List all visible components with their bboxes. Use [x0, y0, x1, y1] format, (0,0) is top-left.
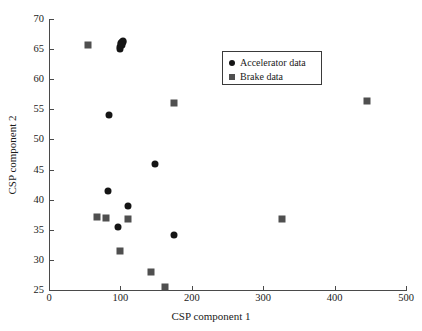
y-tick-mark [50, 170, 54, 171]
data-point-brake [170, 100, 177, 107]
legend-entry-brake: Brake data [229, 70, 316, 84]
data-point-accelerator [151, 160, 158, 167]
data-point-brake [125, 215, 132, 222]
x-tick-mark [335, 286, 336, 290]
data-point-brake [103, 214, 110, 221]
data-point-accelerator [114, 224, 121, 231]
x-axis-title: CSP component 1 [171, 311, 250, 322]
y-tick-label: 25 [26, 285, 44, 296]
y-axis-line [49, 19, 50, 291]
y-tick-label: 45 [26, 164, 44, 175]
data-point-accelerator [125, 202, 132, 209]
data-point-brake [279, 215, 286, 222]
y-tick-label: 70 [26, 14, 44, 25]
data-point-brake [148, 268, 155, 275]
data-point-accelerator [104, 187, 111, 194]
data-point-brake [363, 97, 370, 104]
x-tick-mark [406, 286, 407, 290]
data-point-accelerator [105, 112, 112, 119]
square-marker-icon [229, 74, 235, 80]
x-tick-label: 0 [46, 293, 51, 304]
data-point-brake [85, 42, 92, 49]
chart-legend: Accelerator data Brake data [222, 51, 322, 85]
x-tick-label: 100 [113, 293, 129, 304]
data-point-brake [93, 213, 100, 220]
y-tick-mark [50, 260, 54, 261]
x-tick-mark [263, 286, 264, 290]
data-point-brake [117, 247, 124, 254]
legend-entry-accelerator: Accelerator data [229, 56, 316, 70]
x-tick-label: 400 [327, 293, 343, 304]
legend-label-brake: Brake data [240, 72, 283, 82]
y-tick-mark [50, 230, 54, 231]
y-tick-label: 40 [26, 194, 44, 205]
x-tick-label: 500 [398, 293, 414, 304]
y-tick-mark [50, 49, 54, 50]
y-axis-title: CSP component 2 [7, 115, 18, 194]
y-tick-mark [50, 19, 54, 20]
y-tick-mark [50, 290, 54, 291]
x-tick-mark [120, 286, 121, 290]
x-tick-label: 300 [255, 293, 271, 304]
y-tick-label: 60 [26, 74, 44, 85]
data-point-accelerator [170, 232, 177, 239]
y-tick-label: 65 [26, 44, 44, 55]
circle-marker-icon [229, 60, 235, 66]
y-tick-mark [50, 109, 54, 110]
x-axis-line [49, 290, 407, 291]
top-cropped-caption [0, 0, 422, 10]
x-tick-label: 200 [184, 293, 200, 304]
y-tick-label: 35 [26, 225, 44, 236]
y-tick-label: 55 [26, 104, 44, 115]
y-tick-label: 30 [26, 255, 44, 266]
y-tick-mark [50, 139, 54, 140]
x-tick-mark [192, 286, 193, 290]
scatter-plot-figure: 010020030040050025303540455055606570 CSP… [0, 0, 422, 331]
y-tick-mark [50, 200, 54, 201]
y-tick-mark [50, 79, 54, 80]
data-point-accelerator [119, 42, 126, 49]
y-tick-label: 50 [26, 134, 44, 145]
legend-label-accelerator: Accelerator data [240, 58, 306, 68]
data-point-brake [162, 283, 169, 290]
